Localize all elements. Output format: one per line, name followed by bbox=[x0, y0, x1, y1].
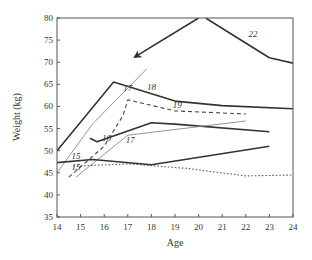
series-line-15 bbox=[57, 146, 269, 165]
x-tick-label: 22 bbox=[241, 222, 250, 232]
annotation-label: 19 bbox=[173, 100, 183, 110]
y-tick-label: 35 bbox=[44, 212, 54, 222]
x-tick-label: 17 bbox=[123, 222, 133, 232]
x-tick-label: 14 bbox=[53, 222, 63, 232]
series-arrow bbox=[135, 18, 199, 57]
annotations: 2217181916171515 bbox=[71, 29, 258, 172]
x-tick-label: 19 bbox=[171, 222, 181, 232]
y-axis: 35404550556065707580 bbox=[44, 13, 60, 222]
x-axis-label: Age bbox=[167, 237, 184, 248]
x-tick-label: 20 bbox=[194, 222, 204, 232]
annotation-label: 22 bbox=[248, 29, 258, 39]
series-line-dotted bbox=[74, 164, 294, 176]
x-tick-label: 24 bbox=[289, 222, 299, 232]
annotation-label: 16 bbox=[102, 133, 112, 143]
y-axis-label: Weight (kg) bbox=[11, 93, 23, 141]
y-tick-label: 65 bbox=[44, 79, 54, 89]
annotation-label: 18 bbox=[147, 82, 157, 92]
annotation-label: 15 bbox=[71, 151, 81, 161]
y-tick-label: 75 bbox=[44, 35, 54, 45]
y-tick-label: 55 bbox=[44, 124, 54, 134]
plot-lines bbox=[57, 18, 293, 177]
weight-age-chart: 1415161718192021222324 35404550556065707… bbox=[0, 0, 312, 260]
y-tick-label: 60 bbox=[44, 101, 54, 111]
y-tick-label: 40 bbox=[44, 190, 54, 200]
x-tick-label: 21 bbox=[218, 222, 227, 232]
annotation-label: 17 bbox=[123, 83, 133, 93]
x-tick-label: 15 bbox=[76, 222, 86, 232]
y-tick-label: 50 bbox=[44, 146, 54, 156]
series-line-22 bbox=[206, 18, 293, 63]
y-tick-label: 80 bbox=[44, 13, 54, 23]
series-line-thick-top bbox=[57, 82, 293, 151]
plot-frame bbox=[57, 18, 293, 217]
annotation-label: 17 bbox=[126, 135, 136, 145]
chart-svg: 1415161718192021222324 35404550556065707… bbox=[0, 0, 312, 260]
annotation-label: 15 bbox=[71, 162, 81, 172]
x-tick-label: 16 bbox=[100, 222, 110, 232]
x-tick-label: 23 bbox=[265, 222, 275, 232]
y-tick-label: 45 bbox=[44, 168, 54, 178]
y-tick-label: 70 bbox=[44, 57, 54, 67]
x-tick-label: 18 bbox=[147, 222, 157, 232]
